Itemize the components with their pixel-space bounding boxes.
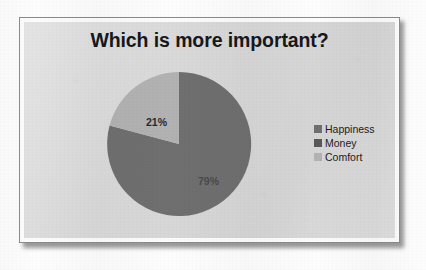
pie-label-happiness: 79%	[198, 175, 219, 187]
legend-swatch-icon-comfort	[314, 153, 322, 161]
legend-item-money[interactable]: Money	[314, 136, 395, 150]
pie-chart: 21% 79%	[106, 71, 252, 217]
legend-label-happiness: Happiness	[325, 123, 375, 135]
legend-label-comfort: Comfort	[325, 151, 362, 163]
legend-swatch-icon-happiness	[314, 125, 322, 133]
legend-label-money: Money	[325, 137, 357, 149]
screenshot-root: Which is more important? 21% 79% Happine…	[0, 0, 426, 270]
legend-swatch-icon-money	[314, 139, 322, 147]
chart-legend: Happiness Money Comfort	[314, 122, 395, 164]
legend-item-comfort[interactable]: Comfort	[314, 150, 395, 164]
chart-frame: Which is more important? 21% 79% Happine…	[19, 17, 400, 243]
pie-label-comfort: 21%	[146, 116, 167, 128]
chart-plot-area: Which is more important? 21% 79% Happine…	[24, 22, 395, 238]
legend-item-happiness[interactable]: Happiness	[314, 122, 395, 136]
chart-title: Which is more important?	[24, 29, 395, 52]
pie-chart-svg	[106, 71, 252, 217]
